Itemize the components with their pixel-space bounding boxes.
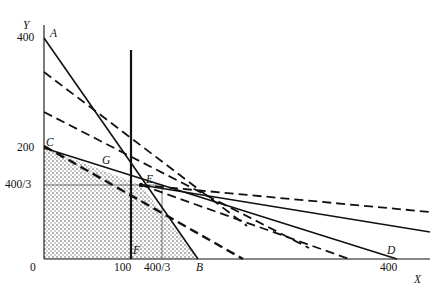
y-tick-400: 400 bbox=[17, 32, 34, 44]
y-axis-label: Y bbox=[23, 20, 29, 32]
figure-canvas: Y X 0 400 200 400/3 100 400/3 400 A C G … bbox=[0, 0, 438, 293]
point-label-d: D bbox=[387, 245, 395, 257]
point-label-g: G bbox=[102, 155, 110, 167]
y-tick-200: 200 bbox=[17, 142, 34, 154]
graph-svg bbox=[0, 0, 438, 293]
y-tick-400-3: 400/3 bbox=[5, 179, 31, 191]
x-tick-100: 100 bbox=[114, 262, 131, 274]
point-label-e: E bbox=[146, 174, 153, 186]
point-label-b: B bbox=[196, 262, 203, 274]
point-label-f: F bbox=[133, 245, 140, 257]
point-marker-e bbox=[139, 183, 143, 187]
origin-label: 0 bbox=[30, 262, 36, 274]
x-axis-label: X bbox=[414, 274, 421, 286]
feasible-region-shading bbox=[44, 148, 198, 259]
point-label-c: C bbox=[46, 137, 54, 149]
x-tick-400: 400 bbox=[380, 262, 397, 274]
point-label-a: A bbox=[50, 28, 57, 40]
x-tick-400-3: 400/3 bbox=[144, 262, 170, 274]
